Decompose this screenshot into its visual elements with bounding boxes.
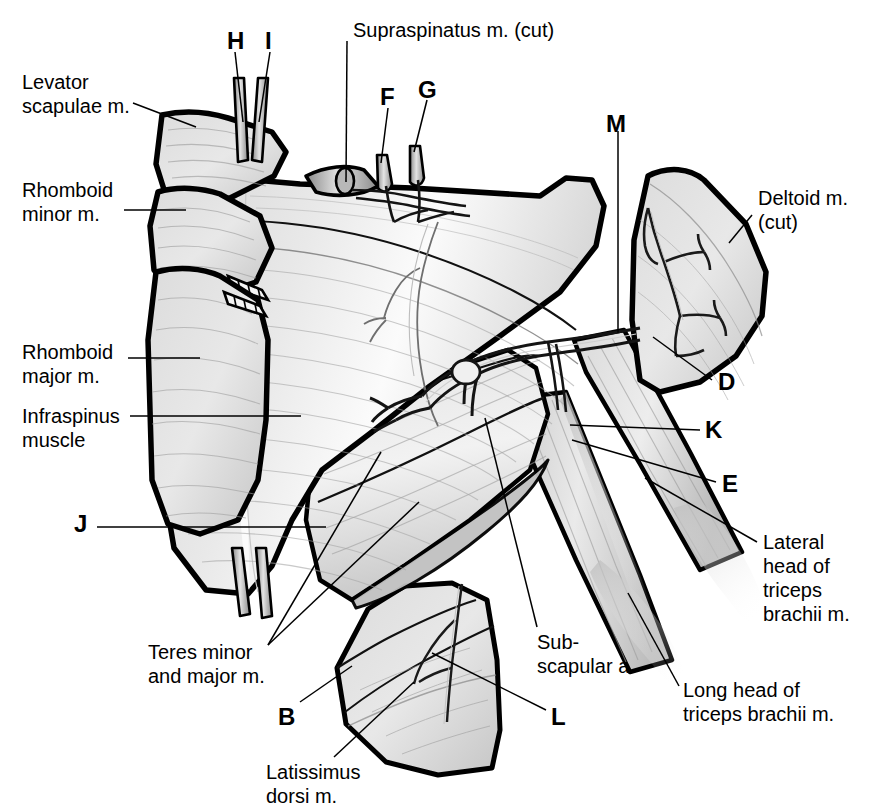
label-marker-h: H xyxy=(227,29,244,53)
label-marker-l: L xyxy=(551,705,566,729)
label-infraspinus: Infraspinus muscle xyxy=(22,404,120,452)
label-levator-scapulae: Levator scapulae m. xyxy=(22,70,130,118)
label-marker-m: M xyxy=(606,112,626,136)
figure-canvas: Levator scapulae m.Rhomboid minor m.Rhom… xyxy=(0,0,879,810)
nerve-stump-h xyxy=(234,78,248,162)
label-marker-f: F xyxy=(380,85,395,109)
label-marker-g: G xyxy=(418,78,437,102)
label-marker-j: J xyxy=(74,512,87,536)
label-teres-minor-major: Teres minor and major m. xyxy=(148,640,265,688)
label-marker-e: E xyxy=(722,472,738,496)
label-deltoid: Deltoid m. (cut) xyxy=(758,186,848,234)
label-supraspinatus: Supraspinatus m. (cut) xyxy=(353,18,554,42)
label-marker-d: D xyxy=(718,370,735,394)
deltoid-flap xyxy=(632,170,766,400)
label-rhomboid-major: Rhomboid major m. xyxy=(22,340,113,388)
latissimus-dorsi-flap xyxy=(337,583,500,775)
rhomboid-major-flap xyxy=(148,269,268,534)
label-long-head: Long head of triceps brachii m. xyxy=(683,678,834,726)
label-rhomboid-minor: Rhomboid minor m. xyxy=(22,178,113,226)
label-marker-i: I xyxy=(265,29,272,53)
label-latissimus-dorsi: Latissimus dorsi m. xyxy=(266,760,360,808)
leader-g xyxy=(414,100,427,152)
label-marker-k: K xyxy=(705,418,722,442)
label-lateral-head: Lateral head of triceps brachii m. xyxy=(763,530,850,626)
label-subscapular-a: Sub- scapular a. xyxy=(537,630,635,678)
label-marker-b: B xyxy=(278,705,295,729)
leader-supraspinatus xyxy=(346,41,347,182)
